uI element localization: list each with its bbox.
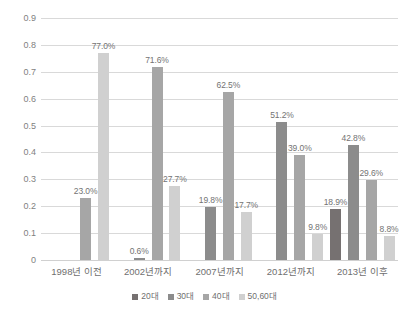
legend-item[interactable]: 20대 — [132, 292, 158, 301]
x-axis: 1998년 이전2002년까지2007년까지2012년까지2013년 이후 — [41, 266, 398, 284]
y-axis-tick-label: 0.9 — [23, 14, 36, 23]
legend-swatch-icon — [203, 294, 209, 300]
y-axis-tick-label: 0 — [31, 256, 36, 265]
bar — [205, 207, 216, 260]
bar — [223, 92, 234, 260]
chart-title-remnant — [0, 0, 409, 7]
bar-slot: 42.8% — [344, 18, 362, 260]
bar — [348, 145, 359, 260]
bar-slot — [59, 18, 77, 260]
bar-group: 18.9%42.8%29.6%8.8% — [327, 18, 398, 260]
bar-slot: 19.8% — [202, 18, 220, 260]
x-axis-tick-label: 2013년 이후 — [337, 266, 388, 278]
y-axis-tick-label: 0.5 — [23, 121, 36, 130]
legend-item[interactable]: 30대 — [168, 292, 194, 301]
bar — [312, 234, 323, 260]
bar-slot: 77.0% — [95, 18, 113, 260]
legend-item[interactable]: 50,60대 — [239, 292, 277, 301]
y-axis-tick-label: 0.2 — [23, 202, 36, 211]
bar-slot: 9.8% — [309, 18, 327, 260]
bar-group: 0.6%71.6%27.7% — [112, 18, 183, 260]
y-axis-tick-label: 0.8 — [23, 40, 36, 49]
bar — [330, 209, 341, 260]
bar — [134, 258, 145, 260]
y-axis-tick-label: 0.6 — [23, 94, 36, 103]
x-axis-tick-label: 2012년까지 — [267, 266, 315, 278]
bar-value-label: 8.8% — [380, 225, 399, 234]
bar-group: 23.0%77.0% — [41, 18, 112, 260]
legend-label: 50,60대 — [248, 292, 277, 301]
bar-value-label: 9.8% — [308, 223, 327, 232]
bar-slot: 71.6% — [148, 18, 166, 260]
bar-slot: 0.6% — [130, 18, 148, 260]
x-axis-tick-label: 1998년 이전 — [51, 266, 102, 278]
bar — [366, 180, 377, 260]
bar — [98, 53, 109, 260]
bar-value-label: 0.6% — [130, 247, 149, 256]
legend-swatch-icon — [132, 294, 138, 300]
legend-swatch-icon — [239, 294, 245, 300]
chart-legend: 20대30대40대50,60대 — [0, 292, 409, 301]
legend-label: 40대 — [212, 292, 229, 301]
bar-slot — [255, 18, 273, 260]
bar-chart: 0.90.80.70.60.50.40.30.20.10 23.0%77.0%0… — [0, 0, 409, 320]
legend-label: 20대 — [141, 292, 158, 301]
y-axis: 0.90.80.70.60.50.40.30.20.10 — [0, 18, 36, 260]
bar — [294, 155, 305, 260]
bar-slot — [41, 18, 59, 260]
bar — [152, 67, 163, 260]
bar-slot: 29.6% — [362, 18, 380, 260]
bar-slot — [184, 18, 202, 260]
x-axis-tick-label: 2002년까지 — [124, 266, 172, 278]
y-axis-tick-label: 0.4 — [23, 148, 36, 157]
bar-slot: 17.7% — [237, 18, 255, 260]
legend-swatch-icon — [168, 294, 174, 300]
bar — [169, 186, 180, 260]
bar — [241, 212, 252, 260]
bar-slot: 39.0% — [291, 18, 309, 260]
bar-group: 19.8%62.5%17.7% — [184, 18, 255, 260]
bar — [276, 122, 287, 260]
legend-label: 30대 — [177, 292, 194, 301]
bar-slot — [112, 18, 130, 260]
axis-baseline — [41, 260, 398, 261]
bar — [384, 236, 395, 260]
bar-slot: 51.2% — [273, 18, 291, 260]
legend-item[interactable]: 40대 — [203, 292, 229, 301]
bar-slot: 62.5% — [219, 18, 237, 260]
y-axis-tick-label: 0.3 — [23, 175, 36, 184]
y-axis-tick-label: 0.7 — [23, 67, 36, 76]
bar-slot: 23.0% — [77, 18, 95, 260]
x-axis-tick-label: 2007년까지 — [195, 266, 243, 278]
bar-slot: 27.7% — [166, 18, 184, 260]
y-axis-tick-label: 0.1 — [23, 229, 36, 238]
bar-group: 51.2%39.0%9.8% — [255, 18, 326, 260]
bar-slot: 8.8% — [380, 18, 398, 260]
plot-area: 23.0%77.0%0.6%71.6%27.7%19.8%62.5%17.7%5… — [41, 18, 398, 260]
bar — [80, 198, 91, 260]
